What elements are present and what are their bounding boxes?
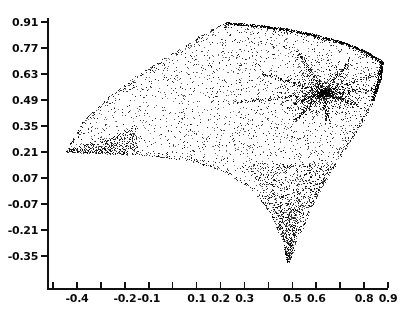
x-tick-11 bbox=[315, 282, 317, 288]
x-tick-label-14: 0.9 bbox=[379, 292, 398, 305]
y-tick-7 bbox=[41, 203, 47, 205]
x-tick-13 bbox=[363, 282, 365, 288]
x-tick-10 bbox=[292, 282, 294, 288]
x-tick-label-10: 0.5 bbox=[283, 292, 302, 305]
y-tick-label-9: -0.35 bbox=[0, 250, 38, 263]
scatter-plot-figure: 0.910.770.630.490.350.210.07-0.07-0.21-0… bbox=[0, 0, 405, 312]
x-tick-label-1: -0.4 bbox=[66, 292, 89, 305]
y-tick-label-6: 0.07 bbox=[0, 172, 38, 185]
x-tick-14 bbox=[387, 282, 389, 288]
x-tick-label-4: -0.1 bbox=[137, 292, 160, 305]
x-tick-9 bbox=[268, 282, 270, 288]
x-axis-spine bbox=[47, 288, 388, 290]
y-tick-label-3: 0.49 bbox=[0, 94, 38, 107]
y-tick-2 bbox=[41, 73, 47, 75]
x-tick-0 bbox=[52, 282, 54, 288]
x-tick-2 bbox=[100, 282, 102, 288]
x-tick-label-8: 0.3 bbox=[235, 292, 254, 305]
y-tick-label-8: -0.21 bbox=[0, 224, 38, 237]
x-tick-1 bbox=[76, 282, 78, 288]
y-tick-label-7: -0.07 bbox=[0, 198, 38, 211]
x-tick-label-6: 0.1 bbox=[187, 292, 206, 305]
x-tick-12 bbox=[339, 282, 341, 288]
x-tick-3 bbox=[124, 282, 126, 288]
x-tick-label-7: 0.2 bbox=[211, 292, 230, 305]
y-tick-3 bbox=[41, 99, 47, 101]
x-tick-8 bbox=[244, 282, 246, 288]
y-tick-4 bbox=[41, 125, 47, 127]
y-tick-6 bbox=[41, 177, 47, 179]
y-axis-spine bbox=[47, 18, 49, 290]
x-tick-label-13: 0.8 bbox=[355, 292, 374, 305]
y-tick-label-4: 0.35 bbox=[0, 120, 38, 133]
x-tick-label-3: -0.2 bbox=[113, 292, 136, 305]
y-tick-label-1: 0.77 bbox=[0, 42, 38, 55]
y-tick-0 bbox=[41, 21, 47, 23]
x-tick-5 bbox=[172, 282, 174, 288]
y-tick-5 bbox=[41, 151, 47, 153]
y-tick-label-0: 0.91 bbox=[0, 16, 38, 29]
scatter-plot-canvas bbox=[0, 0, 405, 312]
x-tick-7 bbox=[220, 282, 222, 288]
x-tick-6 bbox=[196, 282, 198, 288]
y-tick-9 bbox=[41, 255, 47, 257]
y-tick-8 bbox=[41, 229, 47, 231]
x-tick-label-11: 0.6 bbox=[307, 292, 326, 305]
x-tick-4 bbox=[148, 282, 150, 288]
y-tick-1 bbox=[41, 47, 47, 49]
y-tick-label-5: 0.21 bbox=[0, 146, 38, 159]
y-tick-label-2: 0.63 bbox=[0, 68, 38, 81]
